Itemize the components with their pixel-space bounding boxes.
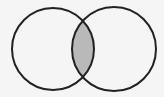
venn-diagram	[0, 0, 164, 97]
